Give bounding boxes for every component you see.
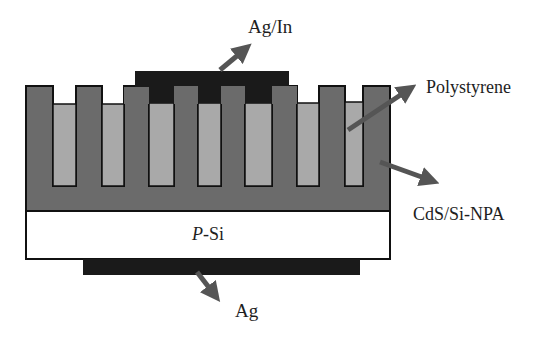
label-polystyrene: Polystyrene <box>426 77 511 97</box>
arrow-ag <box>197 272 214 294</box>
label-p-si: P-Si <box>191 224 224 244</box>
top-electrode-ag-in <box>135 71 289 103</box>
bottom-electrode-ag <box>83 259 360 275</box>
label-ag-in: Ag/In <box>248 16 293 37</box>
label-p-si-rest: -Si <box>203 224 224 244</box>
arrow-ag-in <box>220 50 244 70</box>
label-p-si-italic: P <box>191 224 203 244</box>
label-ag: Ag <box>235 300 259 321</box>
device-diagram: Ag/In Polystyrene CdS/Si-NPA P-Si Ag <box>0 0 547 343</box>
label-cds-si-npa: CdS/Si-NPA <box>413 204 504 224</box>
